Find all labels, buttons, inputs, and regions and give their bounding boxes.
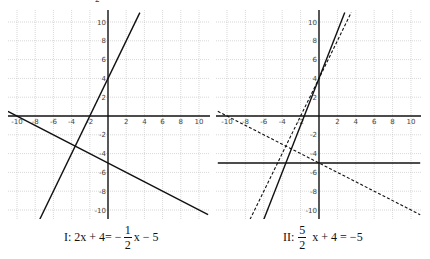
caption-i-suffix: x − 5 — [134, 230, 159, 245]
x-tick-label: 4 — [354, 118, 359, 126]
graphs-canvas: -10-8-6-4-2246810108642-2-4-6-8-10 -10-8… — [0, 0, 430, 259]
caption-equation-ii: II: 5 2 x + 4 = −5 — [283, 224, 363, 251]
y-tick-label: 8 — [313, 37, 317, 45]
y-tick-label: -2 — [310, 131, 317, 139]
x-tick-label: -4 — [279, 118, 287, 126]
x-tick-label: 2 — [335, 118, 339, 126]
y-tick-label: 2 — [102, 94, 106, 102]
y-tick-label: -4 — [99, 150, 107, 158]
fraction-one-half: 1 2 — [124, 224, 132, 251]
y-tick-label: -6 — [310, 169, 318, 177]
x-tick-label: 8 — [179, 118, 183, 126]
x-tick-label: -10 — [221, 118, 232, 126]
x-tick-label: 2 — [124, 118, 128, 126]
fraction-five-halves: 5 2 — [298, 224, 306, 251]
y-tick-label: 8 — [102, 37, 106, 45]
x-tick-label: 6 — [372, 118, 377, 126]
x-tick-label: -10 — [11, 118, 22, 126]
caption-equation-i: I: 2x + 4= − 1 2 x − 5 — [64, 224, 158, 251]
x-tick-label: 6 — [160, 118, 165, 126]
x-tick-label: -6 — [260, 118, 268, 126]
x-tick-label: 10 — [195, 118, 204, 126]
y-tick-label: 6 — [313, 56, 318, 64]
y-tick-label: -4 — [310, 150, 318, 158]
graph-panel-i: -10-8-6-4-2246810108642-2-4-6-8-10 — [8, 10, 210, 219]
y-tick-label: -8 — [99, 188, 106, 196]
y-tick-label: 4 — [313, 75, 318, 83]
caption-ii-prefix: II: — [283, 230, 294, 245]
y-tick-label: -8 — [310, 188, 317, 196]
y-tick-label: 10 — [97, 19, 106, 27]
x-tick-label: 4 — [142, 118, 147, 126]
caption-i-prefix: I: 2x + 4= − — [64, 230, 122, 245]
y-tick-label: -2 — [99, 131, 106, 139]
x-tick-label: -6 — [50, 118, 58, 126]
y-tick-label: 10 — [308, 19, 317, 27]
graph-panel-ii: -10-8-6-4-2246810108642-2-4-6-8-10 — [216, 10, 421, 219]
y-tick-label: -10 — [306, 207, 317, 215]
y-tick-label: -10 — [95, 207, 106, 215]
y-tick-label: 6 — [102, 56, 107, 64]
x-tick-label: 10 — [407, 118, 416, 126]
x-tick-label: -4 — [68, 118, 76, 126]
x-tick-label: 8 — [390, 118, 394, 126]
caption-ii-suffix: x + 4 = −5 — [312, 230, 362, 245]
y-tick-label: -6 — [99, 169, 107, 177]
